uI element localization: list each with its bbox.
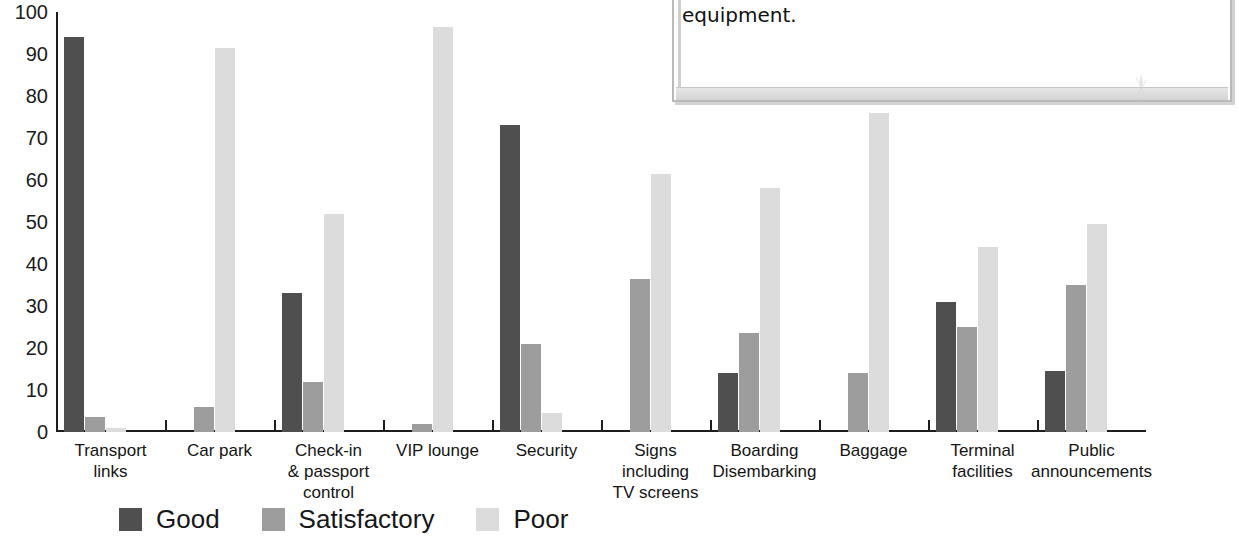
bar-good [64, 37, 84, 432]
legend-item: Good [119, 504, 220, 535]
bar-sat [957, 327, 977, 432]
legend-label: Poor [513, 504, 568, 535]
y-axis-tick-label: 80 [0, 85, 48, 108]
bar-sat [85, 417, 105, 432]
bar-good [500, 125, 520, 432]
x-axis-category-label: Public announcements [1025, 440, 1158, 482]
overlay-left-edge [678, 0, 681, 88]
bar-poor [760, 188, 780, 432]
y-axis-tick-label: 60 [0, 169, 48, 192]
bar-sat [303, 382, 323, 432]
bar-sat [630, 279, 650, 432]
legend-swatch-good [119, 508, 142, 531]
legend-label: Satisfactory [299, 504, 435, 535]
bar-group-bars [64, 12, 127, 432]
bar-poor [869, 113, 889, 432]
bar-poor [324, 214, 344, 432]
bar-good [282, 293, 302, 432]
chart-legend: GoodSatisfactoryPoor [119, 504, 610, 535]
bar-group-bars [282, 12, 345, 432]
bar-group-bars [391, 12, 454, 432]
y-axis-tick-label: 30 [0, 295, 48, 318]
overlay-text: improving communications than investing … [682, 0, 1239, 74]
legend-swatch-poor [476, 508, 499, 531]
bar-poor [215, 48, 235, 432]
scan-artifact-icon [1128, 72, 1154, 106]
bar-sat [194, 407, 214, 432]
bar-group-bars [173, 12, 236, 432]
bar-group [56, 12, 165, 432]
y-axis-tick-label: 0 [0, 421, 48, 444]
legend-item: Poor [476, 504, 568, 535]
bar-sat [739, 333, 759, 432]
legend-item: Satisfactory [262, 504, 435, 535]
bar-good [718, 373, 738, 432]
bar-sat [1066, 285, 1086, 432]
bar-sat [521, 344, 541, 432]
y-axis-tick-label: 90 [0, 43, 48, 66]
bar-poor [106, 428, 126, 432]
bar-sat [848, 373, 868, 432]
y-axis-tick-label: 20 [0, 337, 48, 360]
bar-group [492, 12, 601, 432]
bar-poor [978, 247, 998, 432]
bar-group-bars [609, 12, 672, 432]
y-axis-tick-label: 50 [0, 211, 48, 234]
bar-good [936, 302, 956, 432]
bar-group [165, 12, 274, 432]
bar-good [1045, 371, 1065, 432]
y-axis-tick-label: 10 [0, 379, 48, 402]
bar-sat [412, 424, 432, 432]
legend-label: Good [156, 504, 220, 535]
y-axis-tick-label: 70 [0, 127, 48, 150]
bar-group [383, 12, 492, 432]
y-axis-tick-label: 100 [0, 1, 48, 24]
y-axis-tick-labels: 1009080706050403020100 [0, 0, 50, 543]
bar-poor [651, 174, 671, 432]
bar-group-bars [500, 12, 563, 432]
bar-poor [1087, 224, 1107, 432]
bar-group [274, 12, 383, 432]
legend-swatch-sat [262, 508, 285, 531]
bar-poor [433, 27, 453, 432]
bar-poor [542, 413, 562, 432]
y-axis-tick-label: 40 [0, 253, 48, 276]
